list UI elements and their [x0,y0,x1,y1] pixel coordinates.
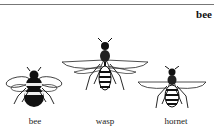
caption-bee: bee [20,116,50,126]
headword: bee [196,8,212,20]
caption-wasp: wasp [90,116,120,126]
top-rule [0,4,214,5]
bee-icon [4,66,64,112]
caption-hornet: hornet [156,116,196,126]
hornet-icon [136,66,208,114]
